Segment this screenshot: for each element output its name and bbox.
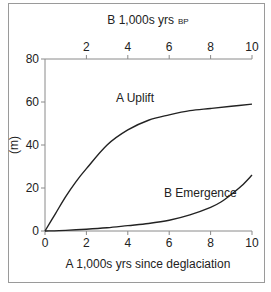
uplift-curve bbox=[45, 104, 252, 231]
x2-tick-label: 6 bbox=[166, 40, 173, 54]
y-tick-label: 40 bbox=[26, 138, 40, 152]
curves bbox=[45, 104, 252, 231]
y-tick-label: 20 bbox=[26, 181, 40, 195]
x2-tick-label: 10 bbox=[245, 40, 259, 54]
axes: 0204060800246810246810 bbox=[26, 40, 259, 250]
top-axis-title: B 1,000s yrsBP bbox=[107, 13, 188, 27]
x-tick-label: 0 bbox=[42, 236, 49, 250]
y-tick-label: 80 bbox=[26, 52, 40, 66]
x-tick-label: 6 bbox=[166, 236, 173, 250]
line-chart: 0204060800246810246810 B 1,000s yrsBP A … bbox=[0, 0, 271, 292]
bottom-axis-title: A 1,000s yrs since deglaciation bbox=[66, 257, 231, 271]
emergence-label: B Emergence bbox=[164, 186, 237, 200]
x-tick-label: 2 bbox=[83, 236, 90, 250]
y-tick-label: 60 bbox=[26, 95, 40, 109]
y-axis-title: (m) bbox=[7, 136, 21, 154]
x-tick-label: 8 bbox=[207, 236, 214, 250]
x-tick-label: 4 bbox=[124, 236, 131, 250]
emergence-curve bbox=[45, 175, 252, 231]
x2-tick-label: 8 bbox=[207, 40, 214, 54]
x-tick-label: 10 bbox=[245, 236, 259, 250]
y-tick-label: 0 bbox=[32, 224, 39, 238]
uplift-label: A Uplift bbox=[116, 91, 155, 105]
x2-tick-label: 2 bbox=[83, 40, 90, 54]
x2-tick-label: 4 bbox=[124, 40, 131, 54]
